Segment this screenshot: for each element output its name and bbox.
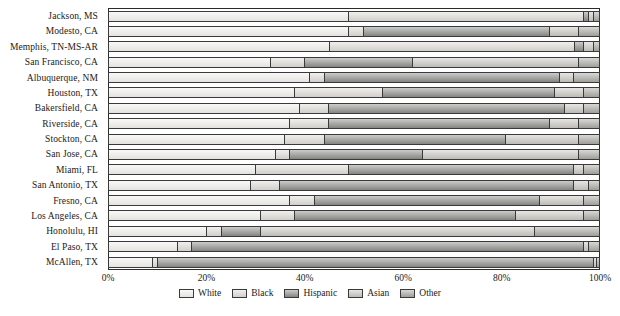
bar-segment-black[interactable] xyxy=(310,73,325,82)
stacked-bar[interactable] xyxy=(108,180,600,191)
bar-segment-black[interactable] xyxy=(271,58,305,67)
bar-segment-white[interactable] xyxy=(109,165,256,174)
bar-segment-hispanic[interactable] xyxy=(192,242,584,251)
bar-segment-white[interactable] xyxy=(109,88,295,97)
bar-segment-other[interactable] xyxy=(579,58,599,67)
bar-segment-other[interactable] xyxy=(579,27,599,36)
bar-segment-asian[interactable] xyxy=(574,165,584,174)
bar-segment-asian[interactable] xyxy=(550,27,579,36)
bar-segment-black[interactable] xyxy=(290,196,315,205)
bar-segment-other[interactable] xyxy=(579,119,599,128)
legend-item-asian[interactable]: Asian xyxy=(348,288,389,298)
stacked-bar[interactable] xyxy=(108,11,600,22)
stacked-bar[interactable] xyxy=(108,26,600,37)
bar-segment-hispanic[interactable] xyxy=(158,258,594,267)
bar-segment-other[interactable] xyxy=(584,211,599,220)
bar-segment-white[interactable] xyxy=(109,104,300,113)
bar-segment-asian[interactable] xyxy=(550,119,579,128)
stacked-bar[interactable] xyxy=(108,134,600,145)
bar-segment-black[interactable] xyxy=(178,242,193,251)
bar-segment-white[interactable] xyxy=(109,119,290,128)
bar-segment-other[interactable] xyxy=(579,135,599,144)
bar-segment-white[interactable] xyxy=(109,181,251,190)
bar-segment-hispanic[interactable] xyxy=(329,104,564,113)
bar-segment-hispanic[interactable] xyxy=(222,227,261,236)
bar-segment-black[interactable] xyxy=(285,135,324,144)
bar-segment-white[interactable] xyxy=(109,58,271,67)
bar-segment-hispanic[interactable] xyxy=(295,211,516,220)
bar-segment-white[interactable] xyxy=(109,12,349,21)
bar-segment-black[interactable] xyxy=(276,150,291,159)
bar-segment-black[interactable] xyxy=(349,12,584,21)
stacked-bar[interactable] xyxy=(108,257,600,268)
bar-segment-hispanic[interactable] xyxy=(325,135,506,144)
bar-segment-hispanic[interactable] xyxy=(305,58,413,67)
legend-item-black[interactable]: Black xyxy=(232,288,273,298)
bar-segment-hispanic[interactable] xyxy=(349,165,574,174)
legend-item-white[interactable]: White xyxy=(179,288,221,298)
bar-segment-black[interactable] xyxy=(290,119,329,128)
bar-segment-white[interactable] xyxy=(109,227,207,236)
bar-segment-asian[interactable] xyxy=(574,181,589,190)
bar-segment-other[interactable] xyxy=(584,196,599,205)
bar-segment-asian[interactable] xyxy=(555,88,584,97)
bar-segment-asian[interactable] xyxy=(413,58,580,67)
bar-segment-white[interactable] xyxy=(109,242,178,251)
stacked-bar[interactable] xyxy=(108,195,600,206)
bar-segment-white[interactable] xyxy=(109,150,276,159)
bar-segment-hispanic[interactable] xyxy=(383,88,555,97)
stacked-bar[interactable] xyxy=(108,118,600,129)
legend-item-hispanic[interactable]: Hispanic xyxy=(284,288,337,298)
bar-segment-asian[interactable] xyxy=(516,211,585,220)
bar-segment-hispanic[interactable] xyxy=(290,150,422,159)
bar-segment-hispanic[interactable] xyxy=(280,181,574,190)
bar-segment-asian[interactable] xyxy=(584,42,594,51)
bar-segment-black[interactable] xyxy=(256,165,349,174)
bar-segment-white[interactable] xyxy=(109,135,285,144)
bar-segment-hispanic[interactable] xyxy=(325,73,560,82)
bar-segment-other[interactable] xyxy=(594,42,599,51)
bar-segment-white[interactable] xyxy=(109,73,310,82)
stacked-bar[interactable] xyxy=(108,226,600,237)
bar-segment-other[interactable] xyxy=(584,88,599,97)
bar-segment-other[interactable] xyxy=(579,150,599,159)
bar-segment-asian[interactable] xyxy=(560,73,575,82)
bar-segment-white[interactable] xyxy=(109,258,153,267)
bar-segment-other[interactable] xyxy=(597,258,599,267)
stacked-bar[interactable] xyxy=(108,241,600,252)
stacked-bar[interactable] xyxy=(108,164,600,175)
bar-segment-white[interactable] xyxy=(109,27,349,36)
bar-segment-asian[interactable] xyxy=(540,196,584,205)
bar-segment-asian[interactable] xyxy=(565,104,585,113)
bar-segment-black[interactable] xyxy=(349,27,364,36)
bar-segment-black[interactable] xyxy=(261,211,295,220)
bar-segment-black[interactable] xyxy=(300,104,329,113)
stacked-bar[interactable] xyxy=(108,41,600,52)
bar-segment-white[interactable] xyxy=(109,42,330,51)
stacked-bar[interactable] xyxy=(108,72,600,83)
bar-segment-other[interactable] xyxy=(584,165,599,174)
bar-segment-other[interactable] xyxy=(589,181,599,190)
bar-segment-hispanic[interactable] xyxy=(315,196,540,205)
bar-segment-other[interactable] xyxy=(594,12,599,21)
bar-segment-white[interactable] xyxy=(109,211,261,220)
stacked-bar[interactable] xyxy=(108,149,600,160)
bar-segment-black[interactable] xyxy=(330,42,575,51)
bar-segment-asian[interactable] xyxy=(423,150,580,159)
bar-segment-black[interactable] xyxy=(295,88,383,97)
legend-item-other[interactable]: Other xyxy=(400,288,441,298)
bar-segment-asian[interactable] xyxy=(261,227,535,236)
stacked-bar[interactable] xyxy=(108,57,600,68)
bar-segment-other[interactable] xyxy=(589,242,599,251)
bar-segment-black[interactable] xyxy=(251,181,280,190)
bar-segment-asian[interactable] xyxy=(506,135,580,144)
bar-segment-other[interactable] xyxy=(584,104,599,113)
stacked-bar[interactable] xyxy=(108,210,600,221)
bar-segment-black[interactable] xyxy=(207,227,222,236)
stacked-bar[interactable] xyxy=(108,103,600,114)
bar-segment-other[interactable] xyxy=(535,227,599,236)
bar-segment-hispanic[interactable] xyxy=(575,42,585,51)
stacked-bar[interactable] xyxy=(108,87,600,98)
bar-segment-white[interactable] xyxy=(109,196,290,205)
bar-segment-hispanic[interactable] xyxy=(364,27,550,36)
